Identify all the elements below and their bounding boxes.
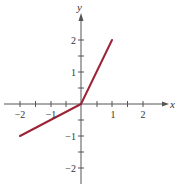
x-tick-label: −2: [15, 109, 26, 120]
x-tick-label: −1: [46, 109, 57, 120]
x-axis-arrow-icon: [162, 102, 169, 107]
y-tick-label: −1: [65, 131, 76, 142]
chart: −2 −1 1 2 2 1 −1 −2 x y: [0, 0, 179, 187]
y-tick-label: −2: [65, 163, 76, 174]
y-tick-label: 2: [71, 35, 76, 46]
function-curve: [20, 40, 112, 136]
x-tick-label: 1: [111, 109, 116, 120]
x-tick-label: 2: [141, 109, 146, 120]
x-axis-label: x: [169, 98, 175, 110]
y-axis-label: y: [76, 1, 82, 13]
y-axis-arrow-icon: [79, 13, 84, 21]
y-tick-label: 1: [71, 67, 76, 78]
